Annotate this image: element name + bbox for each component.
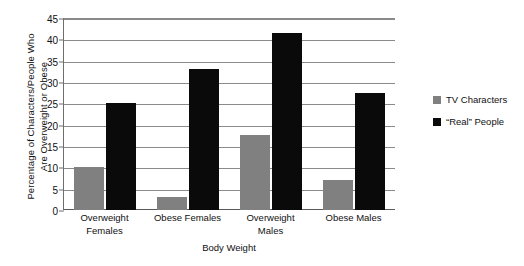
legend-swatch-icon-tv-characters bbox=[433, 96, 441, 104]
legend-item-real-people: “Real” People bbox=[433, 116, 507, 127]
y-tick-5: 5 bbox=[52, 184, 58, 195]
bar-group-overweight-males bbox=[230, 19, 313, 210]
plot-area: 45 40 35 30 25 20 15 10 5 0 bbox=[63, 18, 395, 210]
y-tick-30: 30 bbox=[47, 78, 58, 89]
bar-group-obese-males bbox=[312, 19, 395, 210]
bar-group-obese-females bbox=[147, 19, 230, 210]
bar-real-obese-males bbox=[355, 93, 385, 210]
legend-item-tv-characters: TV Characters bbox=[433, 94, 507, 105]
category-label-obese-females: Obese Females bbox=[146, 212, 229, 237]
y-axis-title: Percentage of Characters/People Who Are … bbox=[25, 12, 50, 222]
x-axis-category-labels: Overweight Females Obese Females Overwei… bbox=[63, 212, 395, 237]
bar-tv-overweight-females bbox=[74, 167, 104, 210]
bar-real-obese-females bbox=[189, 69, 219, 210]
bar-real-overweight-males bbox=[272, 33, 302, 210]
y-tick-25: 25 bbox=[47, 99, 58, 110]
y-tick-20: 20 bbox=[47, 120, 58, 131]
bar-group-overweight-females bbox=[64, 19, 147, 210]
category-label-overweight-males: Overweight Males bbox=[229, 212, 312, 237]
bar-tv-overweight-males bbox=[240, 135, 270, 210]
legend-label-tv-characters: TV Characters bbox=[446, 94, 507, 105]
bar-real-overweight-females bbox=[106, 103, 136, 210]
bar-groups bbox=[64, 19, 395, 210]
y-tick-0: 0 bbox=[52, 206, 58, 217]
legend: TV Characters “Real” People bbox=[433, 94, 507, 127]
legend-swatch-icon-real-people bbox=[433, 118, 441, 126]
category-label-overweight-females: Overweight Females bbox=[63, 212, 146, 237]
y-tick-45: 45 bbox=[47, 14, 58, 25]
y-tick-10: 10 bbox=[47, 163, 58, 174]
y-tick-15: 15 bbox=[47, 142, 58, 153]
category-label-obese-males: Obese Males bbox=[312, 212, 395, 237]
bar-chart: Percentage of Characters/People Who Are … bbox=[0, 0, 524, 266]
bar-tv-obese-males bbox=[323, 180, 353, 210]
x-axis-title: Body Weight bbox=[63, 242, 395, 253]
y-tick-40: 40 bbox=[47, 35, 58, 46]
legend-label-real-people: “Real” People bbox=[446, 116, 504, 127]
y-tick-35: 35 bbox=[47, 56, 58, 67]
bar-tv-obese-females bbox=[157, 197, 187, 210]
